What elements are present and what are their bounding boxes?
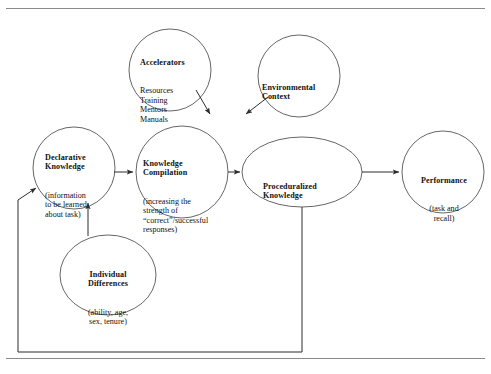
diagram-canvas: Accelerators Resources Training Mentors … [0, 0, 491, 374]
node-shape-accelerators [129, 29, 211, 111]
node-shape-knowledge-compilation [136, 126, 228, 218]
node-shape-individual-differences [60, 235, 156, 315]
edge-environmental-context-to-knowledge-compilation [246, 97, 268, 114]
node-shape-environmental-context [258, 35, 340, 117]
node-shape-performance [402, 131, 484, 213]
node-shape-proceduralized-knowledge [242, 137, 362, 207]
diagram-shapes [0, 0, 491, 374]
node-shape-declarative-knowledge [33, 127, 115, 209]
edge-accelerators-to-knowledge-compilation [196, 90, 210, 114]
